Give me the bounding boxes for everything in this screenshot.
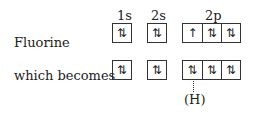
orbital-header-2p: 2p <box>205 9 222 22</box>
orbital-header-1s: 1s <box>117 9 132 22</box>
orbital-header-2s: 2s <box>151 9 166 22</box>
electron-pair-icon: ⇅ <box>221 61 240 79</box>
box-2s-row2: ⇅ <box>147 60 167 80</box>
electron-pair-icon: ⇅ <box>202 61 221 79</box>
electron-pair-icon: ⇅ <box>202 24 221 42</box>
box-1s-row1: ⇅ <box>112 23 132 43</box>
hydrogen-annotation: (H) <box>184 93 205 106</box>
electron-pair-icon: ⇅ <box>148 24 166 42</box>
row-label-which-becomes: which becomes <box>14 69 115 82</box>
electron-pair-icon: ⇅ <box>113 61 131 79</box>
electron-pair-icon: ⇅ <box>148 61 166 79</box>
shared-electron-pair-icon: ⇅ <box>183 61 202 79</box>
bond-dotted-line <box>193 81 194 92</box>
box-2p-row1: ↑ ⇅ ⇅ <box>182 23 241 43</box>
box-2p-row2: ⇅ ⇅ ⇅ <box>182 60 241 80</box>
electron-up-icon: ↑ <box>183 24 202 42</box>
electron-pair-icon: ⇅ <box>221 24 240 42</box>
electron-pair-icon: ⇅ <box>113 24 131 42</box>
box-1s-row2: ⇅ <box>112 60 132 80</box>
box-2s-row1: ⇅ <box>147 23 167 43</box>
row-label-fluorine: Fluorine <box>14 36 70 49</box>
